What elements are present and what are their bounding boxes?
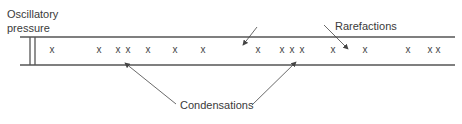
particle-marker: x: [126, 45, 131, 55]
particle-marker: x: [256, 45, 261, 55]
source-label-line2: pressure: [7, 22, 50, 35]
particle-marker: x: [363, 45, 368, 55]
particle-marker: x: [201, 45, 206, 55]
particle-marker: x: [406, 45, 411, 55]
condensation-arrow-left: [125, 63, 176, 104]
particle-marker: x: [173, 45, 178, 55]
source-label-line1: Oscillatory: [7, 8, 58, 21]
particle-marker: x: [331, 45, 336, 55]
particle-marker: x: [428, 45, 433, 55]
particle-marker: x: [290, 45, 295, 55]
rarefactions-label: Rarefactions: [335, 20, 397, 33]
particle-marker: x: [436, 45, 441, 55]
condensation-arrow-right: [252, 62, 296, 105]
particle-marker: x: [300, 45, 305, 55]
rarefaction-arrow-left: [243, 27, 257, 45]
particle-marker: x: [146, 45, 151, 55]
particle-marker: x: [280, 45, 285, 55]
particle-marker: x: [116, 45, 121, 55]
condensations-label: Condensations: [180, 99, 253, 112]
particle-marker: x: [97, 45, 102, 55]
particle-marker: x: [50, 45, 55, 55]
